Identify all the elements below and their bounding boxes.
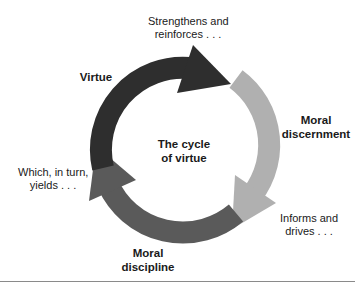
moral-discipline-arc — [108, 184, 236, 233]
virtue-arrowhead — [177, 45, 231, 93]
transition-label-strengthens: Strengthens and reinforces . . . — [148, 15, 228, 41]
stage-label-moral-discernment: Moral discernment — [277, 113, 355, 141]
stage-label-moral-discipline: Moral discipline — [120, 246, 176, 274]
transition-label-informs: Informs and drives . . . — [274, 212, 344, 238]
transition-label-yields: Which, in turn, yields . . . — [18, 166, 88, 192]
stage-label-virtue: Virtue — [74, 70, 118, 84]
bottom-divider — [0, 281, 355, 282]
cycle-of-virtue-diagram: The cycle of virtue Virtue Moral discern… — [0, 0, 355, 288]
center-title: The cycle of virtue — [148, 137, 220, 165]
